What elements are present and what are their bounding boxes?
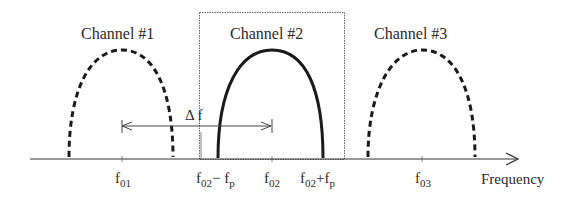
channel-spectrum-diagram: Δ f Channel #1 Channel #2 Channel #3 f01… bbox=[0, 0, 582, 199]
channel-1-curve bbox=[69, 50, 173, 157]
channel-2-label: Channel #2 bbox=[230, 25, 303, 42]
delta-f-label: Δ f bbox=[185, 107, 203, 123]
channel-1-label: Channel #1 bbox=[81, 25, 154, 42]
axis-label: Frequency bbox=[481, 171, 545, 187]
channel-2-curve bbox=[218, 50, 323, 158]
channel-3-curve bbox=[368, 50, 475, 157]
tick-label-f02-minus-fp: f02− fp bbox=[196, 170, 235, 189]
tick-label-f01: f01 bbox=[115, 170, 131, 189]
tick-label-f02-plus-fp: f02+fp bbox=[300, 170, 335, 189]
tick-label-f02: f02 bbox=[264, 170, 280, 189]
tick-label-f03: f03 bbox=[415, 170, 432, 189]
channel-3-label: Channel #3 bbox=[374, 25, 447, 42]
